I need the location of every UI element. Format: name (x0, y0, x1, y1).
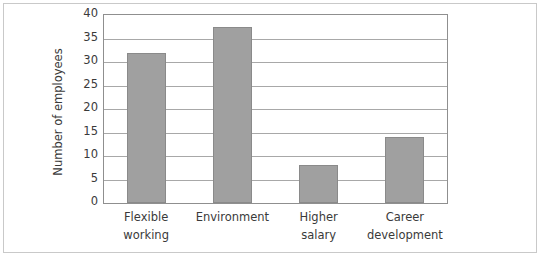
y-tick-label-30: 30 (64, 55, 98, 67)
bar-higher-salary[interactable] (299, 165, 338, 203)
x-tick-label-career-development: Careerdevelopment (362, 207, 448, 253)
x-tick-label-line: development (362, 227, 448, 245)
bar-career-development[interactable] (385, 137, 424, 203)
x-tick-label-line: Career (362, 209, 448, 227)
y-tick-label-5: 5 (64, 173, 98, 185)
gridline-35 (104, 39, 447, 40)
bar-environment[interactable] (213, 27, 252, 203)
x-tick-label-line: working (103, 227, 189, 245)
y-axis-tick-labels: 0510152025303540 (60, 14, 98, 204)
x-tick-label-line: Higher (276, 209, 362, 227)
x-tick-label-higher-salary: Highersalary (276, 207, 362, 253)
bar-flexible-working[interactable] (127, 53, 166, 203)
chart-screenshot: Number of employees 0510152025303540 Fle… (0, 0, 545, 258)
x-axis-category-labels: FlexibleworkingEnvironmentHighersalaryCa… (103, 207, 448, 253)
y-tick-label-20: 20 (64, 102, 98, 114)
y-tick-label-0: 0 (64, 196, 98, 208)
y-tick-label-15: 15 (64, 126, 98, 138)
x-tick-label-environment: Environment (189, 207, 275, 253)
x-tick-label-line: salary (276, 227, 362, 245)
y-tick-label-35: 35 (64, 32, 98, 44)
y-tick-label-25: 25 (64, 79, 98, 91)
x-tick-label-line: Flexible (103, 209, 189, 227)
x-tick-label-flexible-working: Flexibleworking (103, 207, 189, 253)
plot-area (103, 14, 448, 204)
y-tick-label-10: 10 (64, 149, 98, 161)
y-tick-label-40: 40 (64, 8, 98, 20)
x-tick-label-line: Environment (189, 209, 275, 227)
